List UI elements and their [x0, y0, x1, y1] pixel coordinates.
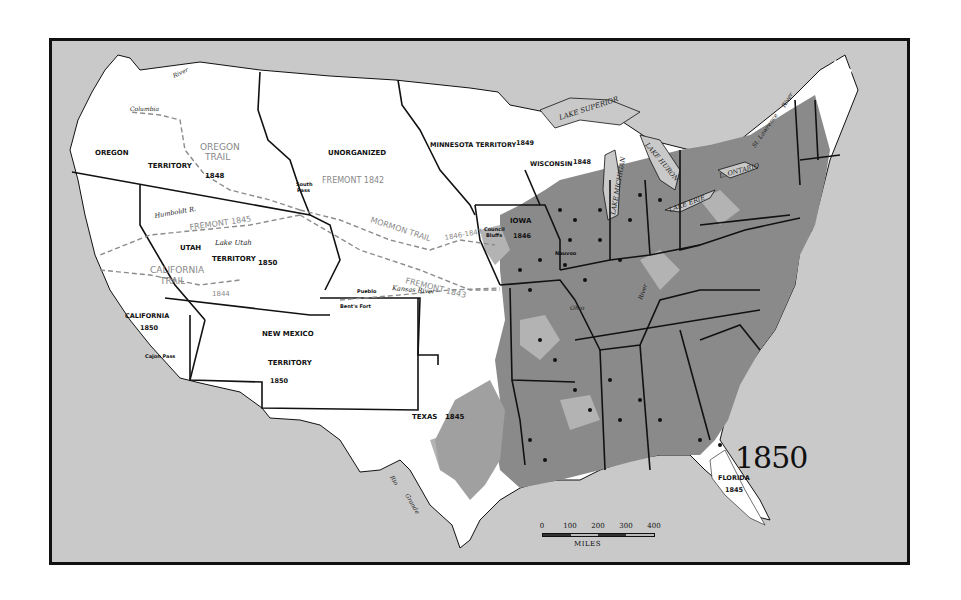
label-utah: UTAH: [180, 244, 201, 252]
scale-bar-graphic: [542, 533, 655, 537]
label-utah-territory: TERRITORY: [212, 255, 257, 263]
label-unorganized: UNORGANIZED: [328, 149, 386, 157]
label-grande: Grande: [404, 492, 422, 515]
scale-bar: 0 100 200 300 400 MILES: [540, 522, 670, 558]
label-pueblo: Pueblo: [357, 288, 377, 294]
scale-tick: 100: [563, 522, 576, 530]
label-oregon-trail-2: TRAIL: [204, 152, 230, 162]
label-texas: TEXAS: [412, 413, 437, 421]
label-new-mexico-year: 1850: [270, 377, 289, 385]
us-1850-map: OREGON TERRITORY 1848 UNORGANIZED MINNES…: [52, 41, 907, 562]
label-columbia-river: Columbia: [130, 105, 159, 112]
map-frame: OREGON TERRITORY 1848 UNORGANIZED MINNES…: [49, 38, 910, 565]
label-oregon-year: 1848: [205, 172, 225, 180]
scale-tick: 400: [647, 522, 660, 530]
label-texas-year: 1845: [445, 413, 465, 421]
label-california-trail: CALIFORNIA: [150, 265, 205, 275]
map-year-title: 1850: [735, 440, 807, 475]
label-bents-fort: Bent's Fort: [340, 303, 372, 309]
label-utah-year: 1850: [258, 259, 278, 267]
label-minnesota-year: 1849: [516, 139, 535, 147]
label-florida-year: 1845: [725, 486, 744, 494]
label-rio: Rio: [389, 473, 401, 486]
label-oregon: OREGON: [95, 149, 129, 157]
label-minnesota-territory: MINNESOTA TERRITORY: [430, 141, 517, 149]
label-lake-utah: Lake Utah: [214, 239, 252, 247]
label-florida: FLORIDA: [718, 474, 750, 482]
label-new-mexico: NEW MEXICO: [262, 330, 314, 338]
label-oregon-trail: OREGON: [200, 142, 240, 152]
scale-tick: 300: [619, 522, 632, 530]
label-wisconsin: WISCONSIN: [530, 160, 573, 168]
label-wisconsin-year: 1848: [573, 158, 592, 166]
label-new-mexico-territory: TERRITORY: [268, 359, 313, 367]
label-fremont-1842: FREMONT 1842: [322, 176, 384, 185]
scale-ticks: 0 100 200 300 400: [540, 522, 670, 532]
label-1844-trail: 1844: [212, 290, 230, 298]
label-ohio: Ohio: [570, 304, 585, 311]
label-council-bluffs-2: Bluffs: [486, 232, 502, 238]
label-california-year: 1850: [140, 324, 159, 332]
label-nauvoo: Nauvoo: [555, 250, 577, 256]
label-oregon-territory: TERRITORY: [148, 162, 193, 170]
label-south-pass-2: Pass: [297, 187, 310, 193]
label-iowa-year: 1846: [513, 232, 532, 240]
label-iowa: IOWA: [510, 217, 532, 225]
label-california: CALIFORNIA: [125, 312, 169, 320]
scale-unit: MILES: [574, 540, 601, 548]
scale-tick: 200: [591, 522, 604, 530]
label-cajon-pass: Cajon Pass: [145, 353, 175, 360]
label-california-trail-2: TRAIL: [159, 276, 185, 286]
scale-tick: 0: [540, 522, 544, 530]
